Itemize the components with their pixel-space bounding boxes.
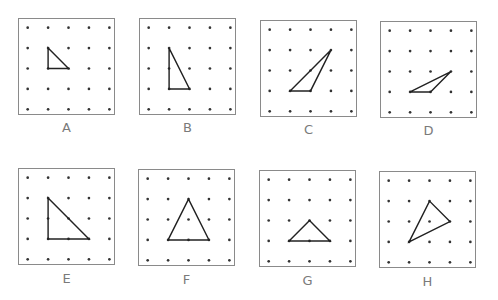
triangle-shape [290, 50, 331, 91]
peg-dot [108, 217, 111, 220]
peg-dot [147, 67, 150, 70]
peg-dot [408, 200, 411, 203]
geoboard-d [380, 21, 477, 118]
peg-dot [350, 28, 353, 31]
peg-dot [208, 218, 211, 221]
peg-dot [388, 70, 391, 73]
peg-dot [309, 110, 312, 113]
triangle-shape [289, 221, 330, 241]
peg-dot [429, 111, 432, 114]
peg-dot [350, 69, 353, 72]
peg-dot [449, 261, 452, 264]
peg-dot [209, 108, 212, 111]
peg-dot [67, 176, 70, 179]
peg-dot [329, 178, 332, 181]
peg-dot [289, 49, 292, 52]
peg-dot [329, 219, 332, 222]
peg-dot [470, 111, 473, 114]
peg-dot [187, 259, 190, 262]
peg-dot [350, 90, 353, 93]
geoboard-c [260, 20, 357, 117]
geoboard-figure: A B C D E F G H [0, 0, 498, 300]
board-label-g: G [259, 273, 356, 288]
peg-dot [387, 220, 390, 223]
peg-dot [267, 240, 270, 243]
peg-dot [108, 67, 111, 70]
triangle-shape [169, 48, 189, 89]
peg-dot [67, 47, 70, 50]
peg-dot [228, 198, 231, 201]
peg-dot [108, 258, 111, 261]
peg-dot [349, 240, 352, 243]
peg-dot [146, 259, 149, 262]
geoboard-drawing [140, 19, 237, 116]
peg-dot [469, 261, 472, 264]
peg-dot [67, 88, 70, 91]
peg-dot [429, 29, 432, 32]
peg-dot [167, 259, 170, 262]
peg-dot [429, 70, 432, 73]
peg-dot [450, 29, 453, 32]
peg-dot [428, 241, 431, 244]
peg-dot [409, 70, 412, 73]
peg-dot [209, 88, 212, 91]
peg-dot [26, 108, 29, 111]
peg-dot [26, 238, 29, 241]
peg-dot [67, 26, 70, 29]
peg-dot [388, 29, 391, 32]
peg-dot [229, 26, 232, 29]
peg-dot [167, 177, 170, 180]
peg-dot [349, 199, 352, 202]
board-label-d: D [380, 123, 477, 138]
peg-dot [228, 177, 231, 180]
peg-dot [470, 91, 473, 94]
peg-dot [267, 178, 270, 181]
peg-dot [26, 67, 29, 70]
peg-dot [209, 47, 212, 50]
peg-dot [146, 198, 149, 201]
peg-dot [229, 47, 232, 50]
peg-dot [387, 200, 390, 203]
peg-dot [88, 176, 91, 179]
peg-dot [387, 261, 390, 264]
peg-dot [88, 197, 91, 200]
peg-dot [429, 50, 432, 53]
peg-dot [26, 197, 29, 200]
peg-dot [268, 49, 271, 52]
geoboard-b [139, 18, 236, 115]
peg-dot [349, 260, 352, 263]
peg-dot [288, 199, 291, 202]
peg-dot [26, 26, 29, 29]
peg-dot [449, 200, 452, 203]
triangle-shape [410, 72, 451, 92]
peg-dot [450, 91, 453, 94]
peg-dot [350, 49, 353, 52]
peg-dot [147, 88, 150, 91]
peg-dot [308, 260, 311, 263]
peg-dot [168, 108, 171, 111]
peg-dot [88, 108, 91, 111]
peg-dot [469, 241, 472, 244]
peg-dot [67, 258, 70, 261]
peg-dot [228, 259, 231, 262]
peg-dot [288, 260, 291, 263]
peg-dot [67, 197, 70, 200]
peg-dot [409, 50, 412, 53]
peg-dot [408, 261, 411, 264]
peg-dot [26, 258, 29, 261]
peg-dot [289, 69, 292, 72]
peg-dot [229, 67, 232, 70]
peg-dot [209, 26, 212, 29]
triangle-shape [48, 198, 89, 239]
peg-dot [388, 50, 391, 53]
geoboard-drawing [261, 21, 358, 118]
board-label-b: B [139, 120, 236, 135]
peg-dot [288, 178, 291, 181]
peg-dot [167, 218, 170, 221]
peg-dot [330, 28, 333, 31]
peg-dot [108, 197, 111, 200]
peg-dot [267, 219, 270, 222]
geoboard-h [379, 171, 476, 268]
peg-dot [26, 88, 29, 91]
peg-dot [409, 29, 412, 32]
